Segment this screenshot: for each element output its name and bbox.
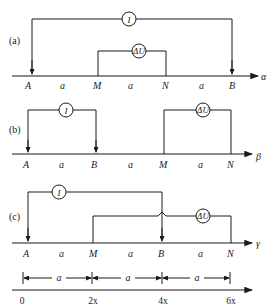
spacing-label: a — [128, 159, 133, 170]
spacing-label: a — [59, 248, 64, 259]
electrode-label: M — [88, 248, 98, 259]
panel-b: (b) β I ΔU A B M N a a a — [9, 103, 261, 170]
spacing-label: a — [59, 159, 64, 170]
voltmeter-icon: ΔU — [196, 103, 210, 117]
spacing-label: a — [128, 80, 133, 91]
panel-label: (c) — [9, 211, 20, 223]
ammeter-icon: I — [122, 12, 136, 26]
electrode-label: B — [158, 248, 164, 259]
scale: a a a 0 2x 4x 6x — [12, 272, 252, 306]
scale-interval-label: a — [57, 272, 62, 283]
spacing-label: a — [128, 248, 133, 259]
tick-label: 6x — [226, 296, 236, 306]
electrode-label: A — [24, 80, 32, 91]
tick-label: 2x — [88, 296, 98, 306]
voltage-wire-left — [164, 110, 196, 154]
electrode-array-diagram: (a) α I ΔU A M N B a a a (b) β — [0, 0, 270, 308]
current-wire-left — [28, 110, 59, 151]
scale-interval-label: a — [126, 272, 131, 283]
spacing-label: a — [60, 80, 65, 91]
svg-text:ΔU: ΔU — [196, 211, 209, 221]
tick-label: 0 — [20, 296, 25, 306]
panel-c: (c) γ I ΔU A M B N a a a — [9, 185, 261, 259]
electrode-label: M — [158, 159, 168, 170]
electrode-label: B — [229, 80, 235, 91]
voltage-wire-left — [93, 212, 196, 243]
ammeter-icon: I — [52, 185, 66, 199]
axis-label: γ — [256, 238, 261, 249]
electrode-label: N — [161, 80, 170, 91]
svg-text:ΔU: ΔU — [132, 46, 145, 56]
tick-label: 4x — [158, 296, 168, 306]
voltmeter-icon: ΔU — [196, 209, 210, 223]
current-wire-left — [28, 192, 52, 240]
spacing-label: a — [198, 248, 203, 259]
electrode-label: B — [91, 159, 97, 170]
electrode-label: A — [22, 159, 30, 170]
voltage-wire-right — [210, 216, 231, 243]
voltage-wire-left — [98, 51, 132, 76]
scale-interval-label: a — [195, 272, 200, 283]
current-wire-right — [136, 19, 232, 73]
electrode-label: N — [226, 248, 235, 259]
panel-label: (b) — [9, 124, 21, 136]
ammeter-icon: I — [59, 103, 73, 117]
axis-label: α — [261, 71, 267, 82]
spacing-label: a — [199, 80, 204, 91]
spacing-label: a — [198, 159, 203, 170]
voltage-wire-right — [210, 110, 231, 154]
axis-label: β — [255, 151, 261, 162]
voltage-wire-right — [146, 51, 166, 76]
electrode-label: M — [92, 80, 102, 91]
svg-text:ΔU: ΔU — [196, 105, 209, 115]
current-wire-left — [32, 19, 122, 73]
current-wire-right — [73, 110, 96, 151]
panel-a: (a) α I ΔU A M N B a a a — [9, 12, 267, 91]
electrode-label: N — [226, 159, 235, 170]
panel-label: (a) — [9, 35, 20, 47]
electrode-label: A — [22, 248, 30, 259]
voltmeter-icon: ΔU — [132, 44, 146, 58]
